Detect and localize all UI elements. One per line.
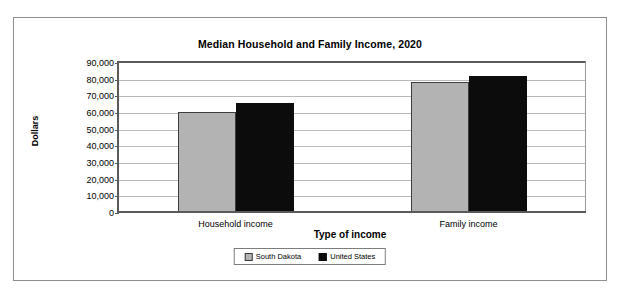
legend-swatch-icon [319, 253, 327, 261]
y-axis-title: Dollars [30, 101, 40, 161]
x-axis-title: Type of income [117, 229, 583, 240]
y-axis-tick-label: 10,000 [86, 191, 114, 201]
y-axis-tick-label: 20,000 [86, 175, 114, 185]
y-axis-tick-label: 40,000 [86, 141, 114, 151]
bar-south-dakota-family-income[interactable] [411, 82, 469, 211]
y-axis-tick-mark [115, 196, 119, 197]
y-axis-tick-mark [115, 163, 119, 164]
bar-south-dakota-household-income[interactable] [178, 112, 236, 211]
y-axis-tick-mark [115, 80, 119, 81]
y-axis-tick-mark [115, 213, 119, 214]
plot-area: Household incomeFamily income 010,00020,… [117, 61, 586, 211]
x-axis-category-label: Family income [352, 219, 585, 229]
bar-united-states-household-income[interactable] [236, 103, 294, 211]
y-axis-tick-mark [115, 146, 119, 147]
y-axis-tick-mark [115, 63, 119, 64]
y-axis-tick-label: 50,000 [86, 125, 114, 135]
legend-label: South Dakota [256, 252, 301, 261]
chart-title: Median Household and Family Income, 2020 [14, 38, 606, 50]
bar-united-states-family-income[interactable] [469, 76, 527, 211]
y-axis-tick-label: 30,000 [86, 158, 114, 168]
legend-item[interactable]: South Dakota [245, 252, 301, 261]
y-axis-tick-label: 70,000 [86, 91, 114, 101]
y-axis-tick-mark [115, 180, 119, 181]
bar-group: Family income [352, 63, 585, 211]
y-axis-tick-label: 0 [109, 208, 114, 218]
y-axis-tick-label: 80,000 [86, 75, 114, 85]
legend-item[interactable]: United States [319, 252, 375, 261]
y-axis-tick-mark [115, 130, 119, 131]
bar-group: Household income [119, 63, 352, 211]
y-axis-tick-mark [115, 113, 119, 114]
y-axis-tick-label: 60,000 [86, 108, 114, 118]
legend-swatch-icon [245, 253, 253, 261]
x-axis-category-label: Household income [119, 219, 352, 229]
bar-groups: Household incomeFamily income [119, 63, 585, 211]
x-axis-line [117, 211, 586, 213]
y-axis-tick-mark [115, 96, 119, 97]
chart-frame: Median Household and Family Income, 2020… [13, 17, 607, 281]
y-axis-tick-label: 90,000 [86, 58, 114, 68]
chart-legend: South DakotaUnited States [234, 248, 386, 265]
legend-label: United States [330, 252, 375, 261]
